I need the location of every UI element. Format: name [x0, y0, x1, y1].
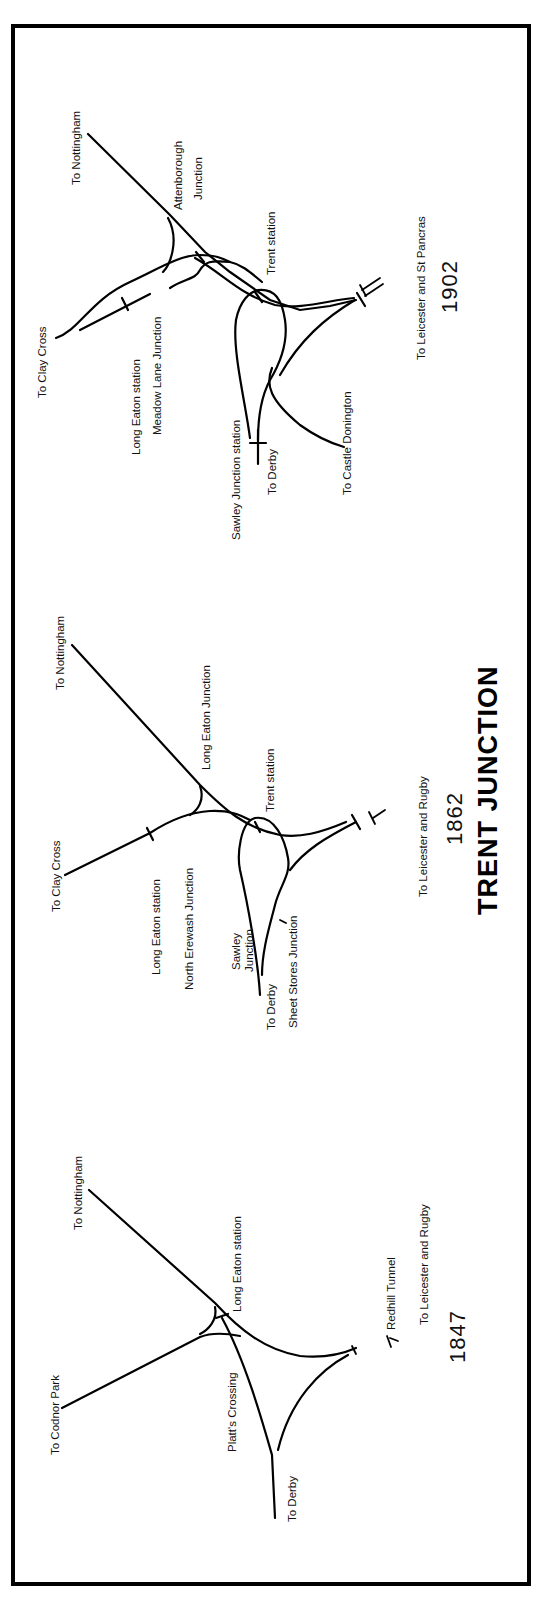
- curve-south-leicester-1847: [278, 1355, 348, 1450]
- label-long-eaton-junction-1862: Long Eaton Junction: [200, 665, 212, 770]
- label-north-erewash-junction-1862: North Erewash Junction: [183, 868, 195, 990]
- label-to-clay-cross-1902: To Clay Cross: [36, 326, 48, 398]
- year-1902: 1902: [437, 260, 462, 313]
- label-to-clay-cross-1862: To Clay Cross: [50, 840, 62, 912]
- track-castle-donington-1902: [269, 368, 344, 447]
- label-redhill-tunnel-1847: Redhill Tunnel: [385, 1257, 397, 1330]
- label-long-eaton-station-1847: Long Eaton station: [231, 1216, 243, 1312]
- label-long-eaton-station-1902: Long Eaton station: [130, 359, 142, 455]
- loop-sawley-1902: [235, 290, 286, 440]
- curve-south-leicester-1862: [290, 822, 356, 870]
- track-end-1862: [352, 815, 360, 829]
- track-end-1902: [357, 293, 365, 306]
- label-to-leicester-1862: To Leicester and Rugby: [417, 776, 429, 897]
- label-platts-crossing-1847: Platt's Crossing: [226, 1372, 238, 1452]
- label-to-derby-1862: To Derby: [265, 984, 277, 1030]
- label-meadow-lane-junction-1902: Meadow Lane Junction: [151, 317, 163, 435]
- label-to-derby-1847: To Derby: [286, 1476, 298, 1522]
- to-leicester-arrow-c-1902: [360, 285, 366, 296]
- page-title: TRENT JUNCTION: [473, 666, 503, 916]
- label-trent-station-1862: Trent station: [264, 749, 276, 813]
- label-sawley-junction-1-1862: Sawley: [230, 933, 242, 970]
- junction-sheet-stores-1862: [280, 920, 286, 923]
- label-to-leicester-1847: To Leicester and Rugby: [418, 1204, 430, 1325]
- track-long-eaton-1902: [80, 294, 150, 330]
- label-sawley-junction-2-1862: Junction: [243, 929, 255, 972]
- year-1847: 1847: [445, 1310, 470, 1363]
- panel-1902: To Nottingham Attenborough Junction Tren…: [36, 111, 462, 540]
- label-to-derby-1902: To Derby: [266, 449, 278, 495]
- label-to-nottingham-1902: To Nottingham: [70, 111, 82, 185]
- panel-1862: To Nottingham Long Eaton Junction Trent …: [50, 616, 503, 1030]
- year-1862: 1862: [442, 792, 467, 845]
- label-sawley-junction-station-1902: Sawley Junction station: [230, 420, 242, 540]
- to-leicester-arrow-1862: [373, 810, 385, 818]
- trent-junction-diagram: To Nottingham Attenborough Junction Tren…: [0, 0, 549, 1609]
- label-long-eaton-station-1862: Long Eaton station: [150, 879, 162, 975]
- curve-platts-1847: [200, 1307, 216, 1334]
- track-clay-cross-1862: [65, 811, 250, 875]
- label-sheet-stores-junction-1862: Sheet Stores Junction: [287, 915, 299, 1028]
- label-trent-station-1902: Trent station: [265, 212, 277, 276]
- label-attenborough-1-1902: Attenborough: [172, 141, 184, 210]
- label-to-nottingham-1862: To Nottingham: [54, 616, 66, 690]
- label-to-castle-donington-1902: To Castle Donington: [341, 391, 353, 495]
- label-to-codnor-park-1847: To Codnor Park: [49, 1375, 61, 1455]
- curve-long-eaton-junction-1862: [190, 786, 202, 815]
- track-nottingham-1847: [89, 1190, 356, 1357]
- curve-south-leicester-1902: [280, 300, 355, 375]
- to-leicester-arrow-1847: [390, 1338, 398, 1341]
- label-to-nottingham-1847: To Nottingham: [72, 1156, 84, 1230]
- label-to-leicester-1902: To Leicester and St Pancras: [415, 216, 427, 360]
- track-codnor-park-1847: [62, 1334, 240, 1408]
- label-attenborough-2-1902: Junction: [192, 157, 204, 200]
- panel-1847: To Nottingham Long Eaton station Redhill…: [49, 1156, 470, 1522]
